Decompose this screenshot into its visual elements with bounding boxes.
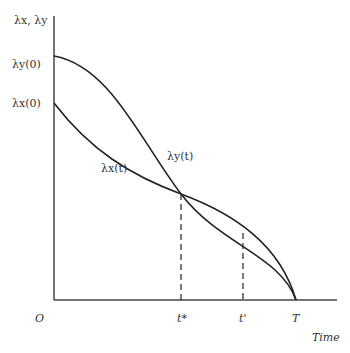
lambda-y0-label: λy(0): [12, 58, 41, 71]
diagram: λx, λy λy(0) λx(0) λy(t) λx(t) O t* t' T…: [0, 0, 350, 353]
lambda-x-curve: [54, 103, 296, 300]
T-label: T: [292, 312, 301, 325]
tstar-label: t*: [177, 312, 187, 325]
lambda-y-t-label: λy(t): [167, 150, 193, 163]
lambda-x0-label: λx(0): [12, 97, 41, 110]
y-axis-label: λx, λy: [14, 14, 48, 27]
x-axis-label: Time: [312, 331, 340, 344]
tprime-label: t': [239, 312, 246, 325]
lambda-y-curve: [54, 56, 296, 300]
lambda-x-t-label: λx(t): [101, 162, 127, 175]
origin-label: O: [35, 312, 44, 325]
